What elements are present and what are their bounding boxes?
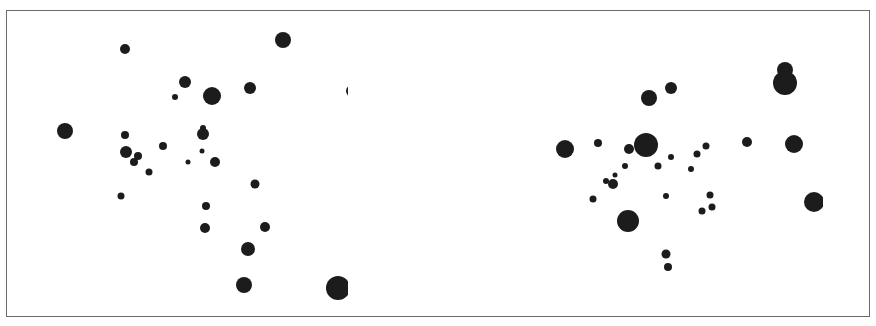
dot xyxy=(244,82,256,94)
dot xyxy=(699,208,706,215)
dot xyxy=(707,192,714,199)
dot xyxy=(146,169,153,176)
dot xyxy=(236,277,252,293)
dot xyxy=(608,179,618,189)
dot xyxy=(200,223,210,233)
dot xyxy=(703,143,710,150)
dot xyxy=(159,142,167,150)
dot xyxy=(186,160,191,165)
dot xyxy=(617,210,639,232)
dot xyxy=(773,71,797,95)
left-panel xyxy=(6,0,348,326)
dot xyxy=(275,32,291,48)
dot xyxy=(663,193,669,199)
dot xyxy=(742,137,752,147)
dot xyxy=(326,276,348,300)
dot xyxy=(556,140,574,158)
dot xyxy=(662,250,671,259)
dot xyxy=(251,180,260,189)
dot-panels xyxy=(0,0,876,326)
dot xyxy=(664,263,672,271)
dot xyxy=(655,163,662,170)
dot xyxy=(668,154,674,160)
dot xyxy=(634,133,658,157)
dot xyxy=(57,123,73,139)
dot xyxy=(118,193,125,200)
dot xyxy=(179,76,191,88)
dot xyxy=(197,128,209,140)
dot xyxy=(260,222,270,232)
dot xyxy=(172,94,178,100)
dot xyxy=(241,242,255,256)
dot xyxy=(624,144,634,154)
dot xyxy=(203,87,221,105)
dot xyxy=(785,135,803,153)
dot xyxy=(594,139,602,147)
dot xyxy=(665,82,677,94)
dot xyxy=(694,151,701,158)
dot xyxy=(709,204,716,211)
dot xyxy=(622,163,628,169)
dot xyxy=(210,157,220,167)
dot xyxy=(120,44,130,54)
dot xyxy=(590,196,597,203)
dot xyxy=(200,149,205,154)
dot xyxy=(688,166,694,172)
dot xyxy=(641,90,657,106)
dot xyxy=(130,158,138,166)
dot xyxy=(613,173,618,178)
dot xyxy=(346,85,348,97)
dot xyxy=(121,131,129,139)
dot xyxy=(804,192,823,212)
dot xyxy=(120,146,132,158)
dot xyxy=(202,202,210,210)
right-panel xyxy=(436,0,823,326)
